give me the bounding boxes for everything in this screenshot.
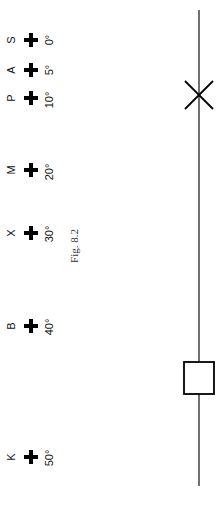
figure-canvas: S 0° A 5° P 10° M 20° X 30° B 40° K 50° …: [0, 0, 223, 526]
scale-line-diagram: [0, 0, 223, 526]
square-marker-icon: [184, 362, 214, 394]
